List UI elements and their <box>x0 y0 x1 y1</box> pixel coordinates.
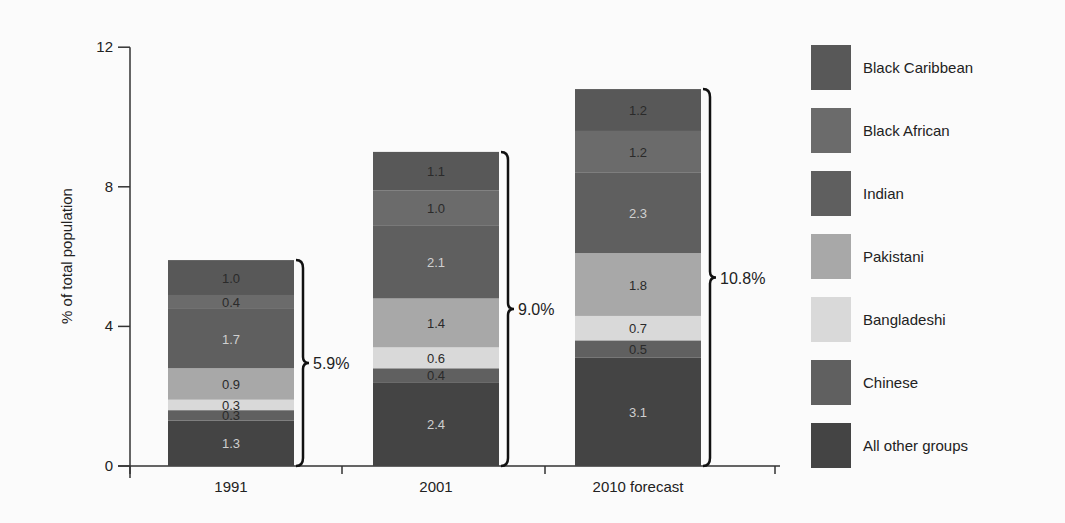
segment-value-label: 1.1 <box>427 164 445 179</box>
legend-item-black-african: Black African <box>811 108 973 153</box>
y-tick-label: 0 <box>105 457 113 474</box>
legend-item-all-other-groups: All other groups <box>811 423 973 468</box>
legend-swatch <box>811 171 851 216</box>
segment-value-label: 0.6 <box>427 351 445 366</box>
x-axis: 199120012010 forecast <box>118 466 780 495</box>
legend-item-black-caribbean: Black Caribbean <box>811 45 973 90</box>
legend-label: Bangladeshi <box>863 311 946 328</box>
segment-value-label: 1.0 <box>222 271 240 286</box>
legend-item-pakistani: Pakistani <box>811 234 973 279</box>
segment-value-label: 0.4 <box>222 295 240 310</box>
segment-value-label: 0.3 <box>222 398 240 413</box>
y-axis-title: % of total population <box>58 188 75 324</box>
legend-label: Black African <box>863 122 950 139</box>
legend-label: Pakistani <box>863 248 924 265</box>
segment-value-label: 2.1 <box>427 255 445 270</box>
segment-value-label: 1.0 <box>427 201 445 216</box>
y-tick-label: 4 <box>105 317 113 334</box>
x-tick-label: 1991 <box>214 478 247 495</box>
total-label: 5.9% <box>313 355 349 372</box>
legend-label: Chinese <box>863 374 918 391</box>
bar-2010-forecast: 3.10.50.71.82.31.21.210.8% <box>575 89 765 466</box>
segment-value-label: 1.8 <box>629 278 647 293</box>
segment-value-label: 0.7 <box>629 321 647 336</box>
segment-value-label: 1.4 <box>427 316 445 331</box>
legend-label: Black Caribbean <box>863 59 973 76</box>
legend-label: All other groups <box>863 437 968 454</box>
legend-item-bangladeshi: Bangladeshi <box>811 297 973 342</box>
total-brace <box>703 89 716 466</box>
segment-value-label: 1.2 <box>629 145 647 160</box>
y-tick-label: 8 <box>105 178 113 195</box>
segment-value-label: 3.1 <box>629 405 647 420</box>
segment-value-label: 1.3 <box>222 436 240 451</box>
total-brace <box>501 152 514 466</box>
legend-swatch <box>811 423 851 468</box>
legend-label: Indian <box>863 185 904 202</box>
legend-item-indian: Indian <box>811 171 973 216</box>
total-brace <box>296 260 309 466</box>
segment-value-label: 1.7 <box>222 332 240 347</box>
legend: Black Caribbean Black African Indian Pak… <box>811 45 973 486</box>
legend-swatch <box>811 45 851 90</box>
total-label: 9.0% <box>518 301 554 318</box>
segment-value-label: 1.2 <box>629 103 647 118</box>
segment-value-label: 2.4 <box>427 417 445 432</box>
y-tick-label: 12 <box>96 38 113 55</box>
segment-value-label: 0.9 <box>222 377 240 392</box>
legend-swatch <box>811 360 851 405</box>
total-label: 10.8% <box>720 270 765 287</box>
bar-1991: 1.30.30.30.91.70.41.05.9% <box>168 260 349 466</box>
legend-swatch <box>811 234 851 279</box>
segment-value-label: 2.3 <box>629 206 647 221</box>
legend-item-chinese: Chinese <box>811 360 973 405</box>
legend-swatch <box>811 297 851 342</box>
bar-2001: 2.40.40.61.42.11.01.19.0% <box>373 152 554 466</box>
bars: 1.30.30.30.91.70.41.05.9%2.40.40.61.42.1… <box>168 89 765 466</box>
x-tick-label: 2001 <box>419 478 452 495</box>
legend-swatch <box>811 108 851 153</box>
x-tick-label: 2010 forecast <box>593 478 685 495</box>
y-axis: 04812 <box>96 38 130 478</box>
segment-value-label: 0.4 <box>427 368 445 383</box>
segment-value-label: 0.5 <box>629 342 647 357</box>
stacked-bar-chart: 04812 199120012010 forecast 1.30.30.30.9… <box>0 0 800 523</box>
